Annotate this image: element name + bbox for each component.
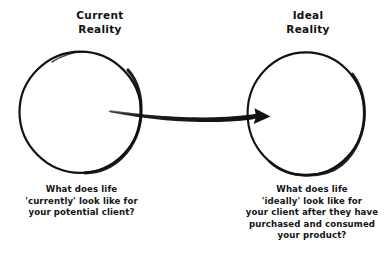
transformation-arrow[interactable] [105,104,277,130]
current-reality-heading: Current Reality [38,8,162,36]
ideal-reality-heading: Ideal Reality [252,8,364,36]
ideal-reality-caption: What does life 'ideally' look like for y… [239,184,385,242]
current-reality-caption: What does life 'currently' look like for… [14,184,149,219]
